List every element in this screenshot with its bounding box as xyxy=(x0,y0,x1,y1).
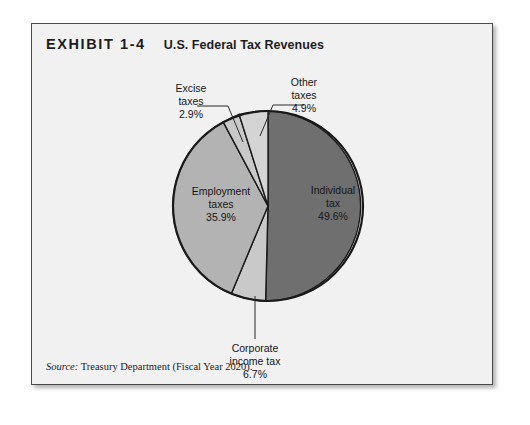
pie-label-excise-taxes: Excise taxes 2.9% xyxy=(160,82,222,121)
pie-label-employment-taxes-line2: taxes xyxy=(171,198,271,211)
source-note: Source: Treasury Department (Fiscal Year… xyxy=(46,361,252,372)
pie-label-employment-taxes: Employment taxes 35.9% xyxy=(171,185,271,224)
source-text: Treasury Department (Fiscal Year 2020). xyxy=(81,361,253,372)
pie-label-employment-taxes-line1: Employment xyxy=(171,185,271,198)
pie-chart: Individual tax 49.6% Employment taxes 35… xyxy=(32,24,492,384)
pie-label-individual-tax-line1: Individual xyxy=(294,184,372,197)
source-label: Source: xyxy=(46,361,78,372)
pie-label-other-taxes-pct: 4.9% xyxy=(273,102,335,115)
pie-label-other-taxes-line1: Other xyxy=(273,76,335,89)
pie-label-other-taxes: Other taxes 4.9% xyxy=(273,76,335,115)
pie-label-individual-tax-line2: tax xyxy=(294,197,372,210)
exhibit-panel: EXHIBIT 1-4 U.S. Federal Tax Revenues In xyxy=(31,23,493,385)
pie-label-individual-tax-pct: 49.6% xyxy=(294,210,372,223)
pie-label-employment-taxes-pct: 35.9% xyxy=(171,211,271,224)
pie-label-excise-taxes-pct: 2.9% xyxy=(160,108,222,121)
pie-label-other-taxes-line2: taxes xyxy=(273,89,335,102)
pie-label-individual-tax: Individual tax 49.6% xyxy=(294,184,372,223)
pie-label-excise-taxes-line2: taxes xyxy=(160,95,222,108)
pie-label-excise-taxes-line1: Excise xyxy=(160,82,222,95)
pie-label-corporate-income-tax-line1: Corporate xyxy=(200,342,310,355)
